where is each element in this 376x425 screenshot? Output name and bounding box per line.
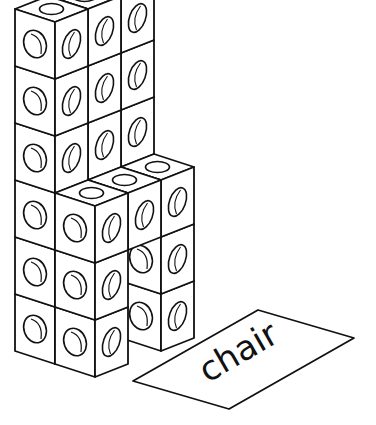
top-hole-icon	[80, 188, 104, 199]
cube-chair-drawing: chair	[0, 0, 376, 425]
chair-cubes-figure: chair	[0, 0, 376, 425]
top-hole-icon	[40, 4, 64, 15]
seat-cube	[55, 180, 128, 263]
top-hole-icon	[146, 162, 170, 173]
top-hole-icon	[113, 175, 137, 186]
back-stack-cube	[15, 0, 88, 79]
